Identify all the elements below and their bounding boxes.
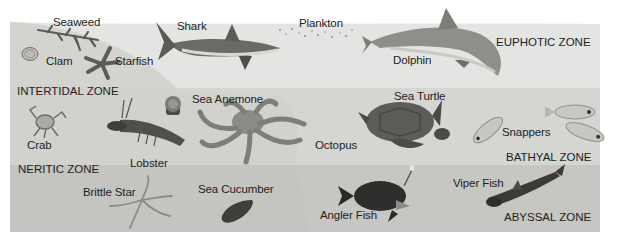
- ocean-zones-diagram: Seaweed Clam Starfish Shark Plankton Dol…: [0, 0, 618, 244]
- label-dolphin: Dolphin: [393, 55, 431, 67]
- label-sea-turtle: Sea Turtle: [394, 91, 445, 103]
- label-abyssal-zone: ABYSSAL ZONE: [504, 212, 591, 224]
- label-euphotic-zone: EUPHOTIC ZONE: [496, 37, 591, 49]
- label-octopus: Octopus: [315, 140, 357, 152]
- label-crab: Crab: [27, 140, 52, 152]
- sea-anemone-icon: [165, 96, 181, 115]
- label-angler-fish: Angler Fish: [320, 210, 377, 222]
- label-sea-anemone: Sea Anemone: [192, 94, 263, 106]
- clam-icon: [22, 48, 38, 61]
- label-lobster: Lobster: [130, 158, 168, 170]
- label-sea-cucumber: Sea Cucumber: [198, 184, 274, 196]
- label-seaweed: Seaweed: [53, 17, 100, 29]
- label-bathyal-zone: BATHYAL ZONE: [506, 152, 591, 164]
- label-starfish: Starfish: [115, 56, 153, 68]
- label-clam: Clam: [46, 56, 72, 68]
- label-intertidal-zone: INTERTIDAL ZONE: [17, 86, 119, 98]
- label-neritic-zone: NERITIC ZONE: [18, 164, 99, 176]
- label-brittle-star: Brittle Star: [83, 187, 135, 199]
- label-snappers: Snappers: [502, 127, 550, 139]
- label-plankton: Plankton: [299, 18, 343, 30]
- label-viper-fish: Viper Fish: [453, 178, 504, 190]
- label-shark: Shark: [177, 21, 207, 33]
